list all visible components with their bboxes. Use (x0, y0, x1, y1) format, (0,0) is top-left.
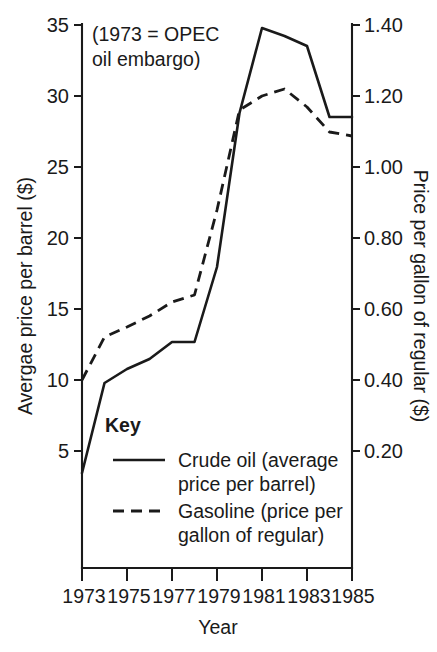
legend-label-gasoline-line-1: Gasoline (price per (178, 500, 343, 522)
y2-ticklabel-0-20: 0.20 (364, 440, 403, 462)
x-ticklabel-1979: 1979 (197, 585, 240, 607)
x-axis-title: Year (198, 616, 238, 638)
legend-title: Key (105, 414, 141, 436)
y-ticklabel-15: 15 (47, 298, 69, 320)
opec-annotation-line-2: oil embargo) (92, 48, 200, 70)
y-axis-left-title: Avergae price per barrel ($) (14, 177, 36, 415)
x-ticklabel-1975: 1975 (107, 585, 151, 607)
chart-container: 35 30 25 20 15 10 5 1.40 1.20 1.00 0.80 … (0, 0, 437, 652)
legend-label-gasoline-line-2: gallon of regular) (178, 524, 324, 546)
y2-ticklabel-1-00: 1.00 (364, 156, 403, 178)
x-ticklabel-1981: 1981 (242, 585, 285, 607)
y-ticklabel-5: 5 (58, 440, 69, 462)
line-chart-figure: 35 30 25 20 15 10 5 1.40 1.20 1.00 0.80 … (0, 0, 437, 652)
x-ticklabel-1985: 1985 (331, 585, 375, 607)
legend-label-crude-oil-line-2: price per barrel) (178, 473, 316, 495)
x-ticklabel-1977: 1977 (152, 585, 195, 607)
y-ticklabel-25: 25 (47, 156, 69, 178)
y-axis-right-title: Price per gallon of regular ($) (410, 170, 432, 423)
y-ticklabel-10: 10 (47, 369, 69, 391)
x-ticklabel-1973: 1973 (62, 585, 105, 607)
y2-ticklabel-0-60: 0.60 (364, 298, 403, 320)
y2-ticklabel-0-80: 0.80 (364, 227, 403, 249)
legend-label-crude-oil-line-1: Crude oil (average (178, 449, 338, 471)
x-ticklabel-1983: 1983 (287, 585, 330, 607)
y-ticklabel-20: 20 (47, 227, 69, 249)
opec-annotation-line-1: (1973 = OPEC (92, 23, 219, 45)
y-ticklabel-30: 30 (47, 85, 69, 107)
y2-ticklabel-1-40: 1.40 (364, 14, 403, 36)
y2-ticklabel-0-40: 0.40 (364, 369, 403, 391)
y2-ticklabel-1-20: 1.20 (364, 85, 403, 107)
y-ticklabel-35: 35 (47, 14, 69, 36)
